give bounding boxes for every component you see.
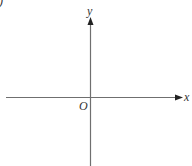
origin-label: O bbox=[79, 99, 88, 113]
coordinate-plane: ) y x O bbox=[0, 0, 192, 166]
x-axis-arrow-icon bbox=[175, 95, 183, 101]
x-axis-label: x bbox=[183, 90, 190, 104]
y-axis-arrow-icon bbox=[88, 17, 94, 25]
corner-mark: ) bbox=[0, 0, 3, 8]
y-axis-label: y bbox=[86, 4, 93, 18]
